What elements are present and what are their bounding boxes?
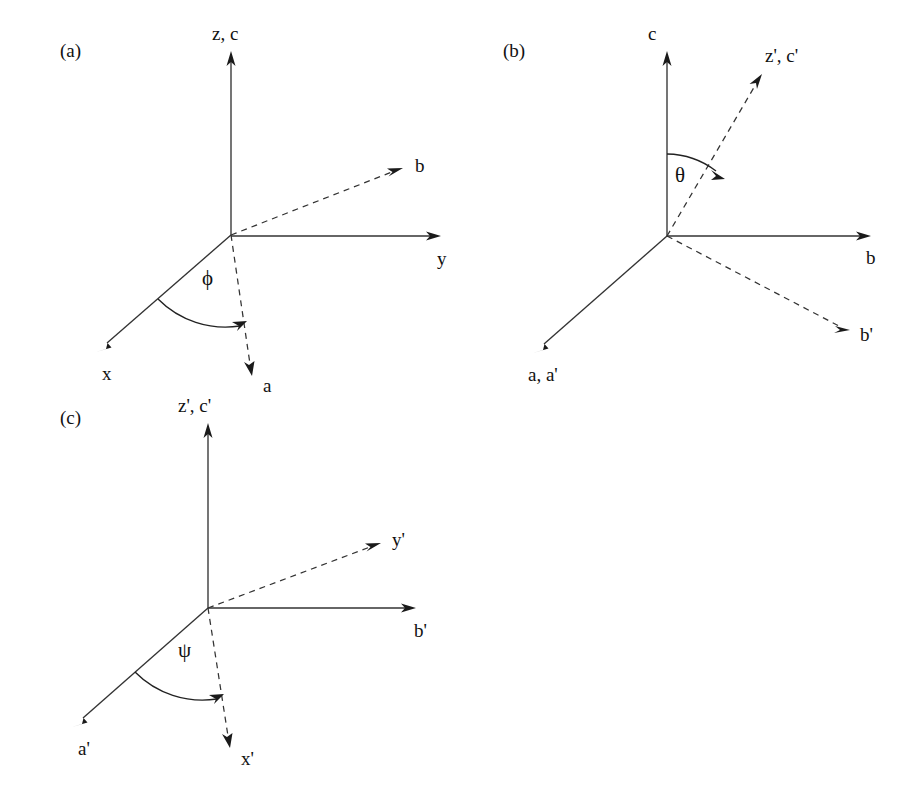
panel-b-label: (b) [503, 40, 525, 62]
figure-root: (a) z, c y x b [0, 0, 918, 791]
panel-c-axis-zprime-cprime: z', c' [178, 395, 213, 608]
panel-a-axis-a-arrowhead [244, 361, 255, 376]
panel-c-axis-bprime-label: b' [414, 620, 427, 641]
panel-a-axis-a-label: a [263, 375, 272, 396]
panel-c-axis-yprime-line [208, 547, 370, 608]
panel-c-axis-yprime: y' [208, 529, 405, 608]
panel-b: (b) c b a, a' z [503, 23, 876, 385]
panel-c-axis-xprime: x' [208, 608, 254, 769]
panel-b-axis-c-label: c [648, 23, 656, 44]
panel-a-axis-b-arrowhead [387, 168, 403, 177]
panel-b-axis-b: b [667, 232, 876, 269]
panel-c-axis-aprime-line [83, 608, 208, 718]
panel-c-axis-aprime-arrowhead [72, 718, 88, 727]
panel-b-axis-bprime-arrowhead [834, 326, 850, 333]
panel-b-axis-c: c [648, 23, 672, 236]
panel-b-axis-b-label: b [866, 247, 876, 268]
panel-a-axis-y: y [231, 232, 447, 270]
panel-c-axis-bprime: b' [208, 604, 427, 642]
panel-b-angle-theta: θ [667, 154, 725, 187]
panel-c-axis-xprime-line [208, 608, 228, 736]
panel-a-axis-x-label: x [102, 363, 112, 384]
panel-a: (a) z, c y x b [60, 23, 447, 396]
panel-c-axis-aprime: a' [72, 608, 208, 759]
panel-b-axis-a-aprime-label: a, a' [528, 364, 558, 385]
panel-c-angle-psi-arc [135, 672, 217, 700]
panel-a-axis-z-c: z, c [212, 23, 238, 235]
panel-c: (c) z', c' b' a' [60, 395, 427, 769]
euler-angle-diagram: (a) z, c y x b [0, 0, 918, 791]
panel-c-axis-yprime-arrowhead [365, 543, 381, 552]
panel-c-axis-yprime-label: y' [392, 529, 405, 550]
panel-a-axis-a-line [231, 235, 250, 364]
panel-b-axis-zprime-cprime-arrowhead [750, 74, 763, 89]
panel-a-axis-b-line [231, 172, 392, 235]
panel-a-axis-z-c-label: z, c [212, 23, 238, 44]
panel-b-axis-zprime-cprime: z', c' [667, 45, 798, 236]
panel-c-label: (c) [60, 407, 81, 429]
panel-c-axis-zprime-cprime-label: z', c' [178, 395, 211, 416]
panel-c-angle-psi: ψ [135, 638, 224, 704]
panel-a-angle-phi-arc [158, 299, 240, 327]
panel-c-angle-psi-label: ψ [178, 638, 191, 662]
panel-a-angle-phi-label: ϕ [202, 266, 213, 290]
panel-b-axis-a-aprime: a, a' [528, 236, 667, 385]
panel-b-axis-bprime-label: b' [860, 324, 873, 345]
panel-a-axis-b: b [231, 155, 425, 235]
panel-b-axis-a-aprime-arrowhead [533, 344, 549, 353]
panel-a-label: (a) [60, 40, 81, 62]
panel-b-angle-theta-label: θ [675, 163, 685, 187]
panel-b-angle-theta-arrowhead [711, 170, 725, 180]
panel-a-angle-phi: ϕ [158, 266, 247, 331]
panel-b-axis-zprime-cprime-label: z', c' [765, 45, 798, 66]
panel-c-axis-xprime-arrowhead [222, 733, 233, 748]
panel-c-axis-aprime-label: a' [78, 738, 90, 759]
panel-b-axis-bprime-line [667, 236, 839, 326]
panel-a-axis-y-label: y [437, 248, 447, 269]
panel-a-axis-a: a [231, 235, 272, 396]
panel-b-axis-bprime: b' [667, 236, 873, 345]
panel-b-axis-a-aprime-line [544, 236, 667, 344]
panel-a-axis-x-arrowhead [96, 343, 112, 352]
panel-a-axis-b-label: b [415, 155, 425, 176]
panel-a-axis-x: x [96, 235, 231, 384]
panel-c-axis-xprime-label: x' [241, 748, 254, 769]
panel-b-axis-zprime-cprime-line [667, 84, 756, 236]
